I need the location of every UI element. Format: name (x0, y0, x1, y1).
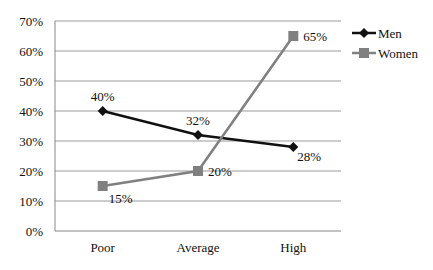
line-chart: 0%10%20%30%40%50%60%70% PoorAverageHigh … (0, 0, 433, 270)
series-lines: 40%32%28%15%20%65% (91, 29, 328, 206)
y-tick-label: 40% (19, 104, 43, 119)
legend-women-square-marker (359, 48, 369, 58)
y-tick-label: 50% (19, 74, 43, 89)
legend-label: Women (378, 46, 419, 61)
women-data-label: 15% (109, 191, 133, 206)
y-axis-ticks: 0%10%20%30%40%50%60%70% (19, 14, 43, 239)
y-tick-label: 30% (19, 134, 43, 149)
men-data-label: 32% (186, 113, 210, 128)
women-data-label: 65% (303, 29, 327, 44)
legend-item-men: Men (352, 26, 402, 41)
men-diamond-marker (193, 130, 203, 140)
men-diamond-marker (98, 106, 108, 116)
women-data-label: 20% (208, 164, 232, 179)
men-data-label: 40% (91, 89, 115, 104)
x-tick-label: Average (176, 240, 219, 255)
series-men: 40%32%28% (91, 89, 322, 164)
x-tick-label: Poor (90, 240, 115, 255)
y-tick-label: 10% (19, 194, 43, 209)
women-square-marker (288, 31, 298, 41)
x-tick-label: High (280, 240, 307, 255)
women-square-marker (193, 166, 203, 176)
men-data-label: 28% (297, 149, 321, 164)
women-square-marker (98, 181, 108, 191)
y-tick-label: 70% (19, 14, 43, 29)
y-tick-label: 0% (26, 224, 44, 239)
y-tick-label: 60% (19, 44, 43, 59)
y-tick-label: 20% (19, 164, 43, 179)
x-axis-ticks: PoorAverageHigh (90, 240, 306, 255)
legend: MenWomen (352, 26, 419, 61)
legend-label: Men (378, 26, 402, 41)
legend-item-women: Women (352, 46, 419, 61)
legend-men-diamond-marker (359, 28, 369, 38)
